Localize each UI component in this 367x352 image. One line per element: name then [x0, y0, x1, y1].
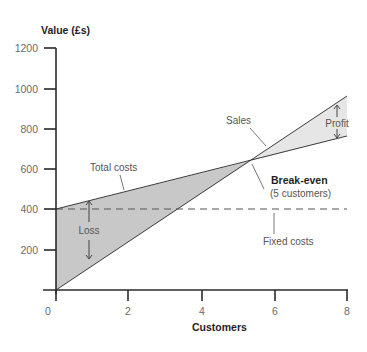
- x-tick-label: 4: [199, 305, 205, 317]
- y-tick-label: 600: [20, 163, 38, 175]
- loss-label: Loss: [78, 225, 99, 236]
- break-even-chart: 1200 1000 800 600 400 200 0 2 4 6 8 Valu…: [0, 0, 367, 352]
- break-even-label: Break-even: [271, 174, 328, 186]
- break-even-sublabel: (5 customers): [270, 188, 331, 199]
- y-tick-label: 200: [20, 244, 38, 256]
- x-tick-label: 2: [125, 305, 131, 317]
- x-axis-title: Customers: [192, 321, 247, 333]
- y-tick-label: 1200: [15, 42, 39, 54]
- x-tick-label: 6: [272, 305, 278, 317]
- sales-pointer: [250, 128, 266, 146]
- y-tick-label: 1000: [15, 83, 39, 95]
- y-axis-title: Value (£s): [41, 24, 90, 36]
- y-tick-label: 400: [20, 203, 38, 215]
- y-tick-label: 800: [20, 123, 38, 135]
- fixed-costs-label: Fixed costs: [263, 236, 314, 247]
- sales-label: Sales: [226, 115, 251, 126]
- total-costs-label: Total costs: [90, 162, 137, 173]
- profit-label: Profit: [325, 118, 349, 129]
- total-costs-pointer: [120, 175, 124, 190]
- x-tick-label: 8: [344, 305, 350, 317]
- x-ticks: [56, 290, 347, 301]
- y-ticks: [44, 48, 56, 250]
- break-even-pointer: [252, 164, 264, 189]
- x-tick-label: 0: [45, 305, 51, 317]
